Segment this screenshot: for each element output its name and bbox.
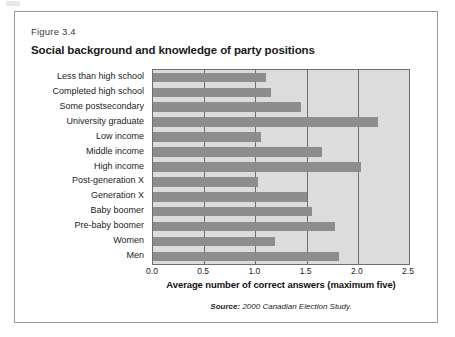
y-axis-label-low-income: Low income: [96, 131, 144, 141]
bar: [153, 177, 258, 187]
y-axis-category-labels: Less than high schoolCompleted high scho…: [15, 69, 148, 263]
bar-row: [153, 100, 409, 115]
bar-row: [153, 174, 409, 189]
source-note: Source: 2000 Canadian Election Study.: [152, 302, 410, 311]
x-axis-tick-0.5: 0.5: [197, 266, 209, 276]
bar: [153, 147, 322, 157]
bar: [153, 117, 378, 127]
y-axis-label-pre-baby-boomer: Pre-baby boomer: [74, 220, 144, 230]
y-axis-label-less-than-high-school: Less than high school: [57, 71, 144, 81]
x-axis-tick-0.0: 0.0: [146, 266, 158, 276]
source-label: Source:: [210, 302, 240, 311]
y-axis-label-baby-boomer: Baby boomer: [90, 205, 144, 215]
bar: [153, 162, 361, 172]
x-axis-tick-1.0: 1.0: [248, 266, 260, 276]
bar-row: [153, 249, 409, 264]
bar-row: [153, 70, 409, 85]
y-axis-label-middle-income: Middle income: [86, 146, 144, 156]
bar: [153, 222, 335, 232]
y-axis-label-some-postsecondary: Some postsecondary: [59, 101, 144, 111]
y-axis-label-university-graduate: University graduate: [66, 116, 144, 126]
bar: [153, 207, 312, 217]
bar: [153, 73, 266, 83]
bar: [153, 132, 261, 142]
source-text: 2000 Canadian Election Study.: [240, 302, 351, 311]
y-axis-label-generation-x: Generation X: [91, 190, 144, 200]
bar-row: [153, 234, 409, 249]
bar: [153, 88, 271, 98]
y-axis-label-completed-high-school: Completed high school: [52, 86, 144, 96]
y-axis-label-men: Men: [126, 250, 144, 260]
bar-row: [153, 204, 409, 219]
bar-row: [153, 85, 409, 100]
bar-row: [153, 219, 409, 234]
figure-card: Figure 3.4 Social background and knowled…: [14, 11, 438, 323]
plot-area: [152, 69, 410, 265]
x-axis-tick-2.0: 2.0: [351, 266, 363, 276]
x-axis-tick-1.5: 1.5: [300, 266, 312, 276]
x-axis-tick-labels: 0.00.51.01.52.02.5: [152, 266, 410, 280]
bar-chart: Less than high schoolCompleted high scho…: [15, 12, 439, 324]
y-axis-label-women: Women: [113, 235, 144, 245]
y-axis-label-post-generation-x: Post-generation X: [72, 175, 144, 185]
y-axis-label-high-income: High income: [94, 161, 144, 171]
bar: [153, 192, 307, 202]
x-axis-tick-2.5: 2.5: [402, 266, 414, 276]
bar: [153, 237, 275, 247]
bar-row: [153, 115, 409, 130]
bar: [153, 252, 339, 262]
scan-artifact: [6, 1, 20, 6]
bar-row: [153, 145, 409, 160]
x-axis-title: Average number of correct answers (maxim…: [152, 279, 410, 290]
bar-row: [153, 189, 409, 204]
bar-row: [153, 160, 409, 175]
bar-row: [153, 130, 409, 145]
bar: [153, 102, 301, 112]
